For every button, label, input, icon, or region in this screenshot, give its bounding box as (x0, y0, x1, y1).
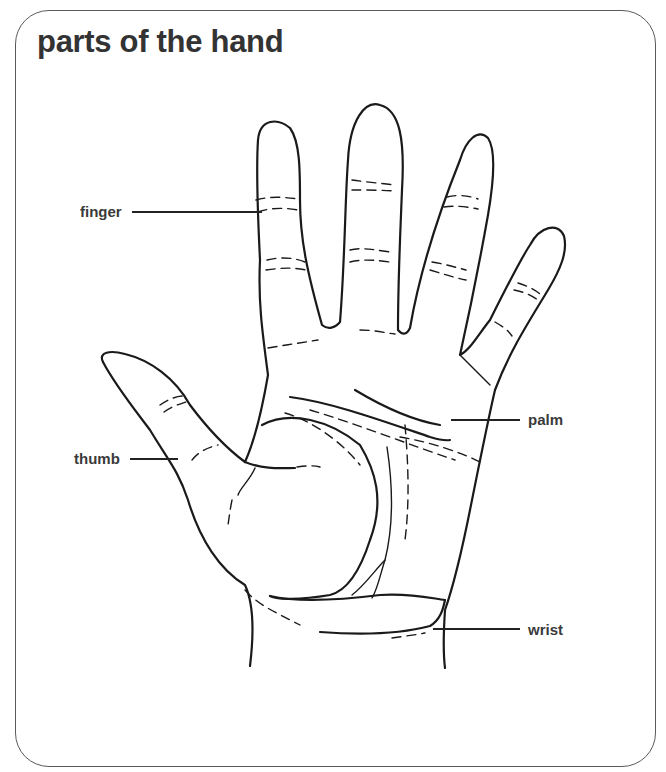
hand-outline (102, 104, 565, 668)
label-thumb: thumb (74, 450, 120, 468)
hand-illustration (0, 0, 666, 772)
label-wrist: wrist (528, 621, 563, 639)
label-palm: palm (528, 411, 563, 429)
label-finger: finger (80, 203, 122, 221)
